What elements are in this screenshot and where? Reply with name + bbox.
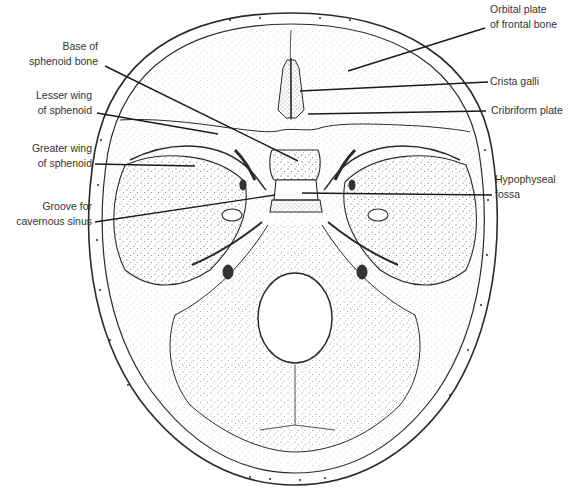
label-base-of-sphenoid: Base of sphenoid bone xyxy=(29,39,98,69)
label-cribriform-plate: Cribriform plate xyxy=(491,103,563,118)
label-line: Groove for xyxy=(16,199,92,214)
label-groove-cavernous-sinus: Groove for cavernous sinus xyxy=(16,199,92,229)
label-hypophyseal-fossa: Hypophyseal fossa xyxy=(495,172,556,202)
label-line: fossa xyxy=(495,187,556,202)
label-line: sphenoid bone xyxy=(29,54,98,69)
label-lesser-wing: Lesser wing of sphenoid xyxy=(36,88,92,118)
label-crista-galli: Crista galli xyxy=(490,74,539,89)
label-line: Lesser wing xyxy=(36,88,92,103)
label-line: Base of xyxy=(29,39,98,54)
label-greater-wing: Greater wing of sphenoid xyxy=(32,141,92,171)
label-line: of sphenoid xyxy=(36,103,92,118)
label-line: Orbital plate xyxy=(490,2,557,17)
label-orbital-plate: Orbital plate of frontal bone xyxy=(490,2,557,32)
label-line: cavernous sinus xyxy=(16,214,92,229)
label-line: of frontal bone xyxy=(490,17,557,32)
label-line: Greater wing xyxy=(32,141,92,156)
label-line: Hypophyseal xyxy=(495,172,556,187)
label-line: Cribriform plate xyxy=(491,103,563,118)
label-line: Crista galli xyxy=(490,74,539,89)
label-line: of sphenoid xyxy=(32,156,92,171)
